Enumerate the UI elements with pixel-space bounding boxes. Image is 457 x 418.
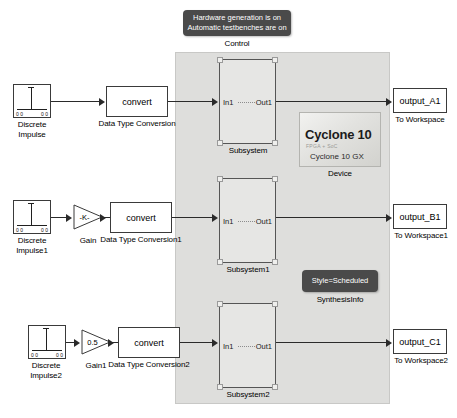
impulse-axis-icon (32, 350, 62, 351)
subsystem-dash-icon-1 (238, 221, 255, 222)
arrow-sink-in-2 (386, 339, 392, 347)
subsystem-block-2[interactable]: In1 Out1 (219, 303, 276, 388)
to-workspace-text-2: output_C1 (399, 337, 441, 347)
convert-text-1: convert (126, 213, 156, 223)
discrete-impulse-label-1: Discrete Impulse1 (0, 236, 64, 256)
subsystem-in-port-1: In1 (223, 216, 233, 225)
arrow-gain-in-1 (66, 214, 72, 222)
arrow-convert-in-0 (99, 98, 105, 106)
impulse-tick-left: 0 0 (31, 352, 38, 358)
impulse-axis-icon (17, 225, 47, 226)
arrow-subsystem-in-1 (212, 214, 218, 222)
impulse-spike-icon (31, 88, 32, 110)
subsystem-in-port-0: In1 (223, 97, 233, 106)
wire-subsystem-to-sink-0 (276, 101, 389, 102)
subsystem-label-0: Subsystem (212, 146, 284, 156)
discrete-impulse-label-0: Discrete Impulse (0, 120, 64, 140)
convert-text-0: convert (122, 97, 152, 107)
impulse-tick-left: 0 0 (16, 227, 23, 233)
to-workspace-block-1[interactable]: output_B1 (393, 204, 447, 229)
to-workspace-text-1: output_B1 (399, 212, 440, 222)
wire-convert-to-subsystem-2 (180, 342, 215, 343)
gain-block-1[interactable]: -K- (73, 204, 103, 230)
impulse-axis-icon (17, 109, 47, 110)
subsystem-out-port-1: Out1 (256, 216, 272, 225)
to-workspace-label-1: To Workspace1 (386, 231, 456, 241)
device-subtitle: FPGA + SoC (306, 143, 338, 149)
control-label: Control (183, 39, 291, 49)
arrow-gain-in-2 (74, 339, 80, 347)
arrow-convert-in-1 (100, 214, 106, 222)
to-workspace-label-0: To Workspace (386, 115, 454, 125)
to-workspace-block-0[interactable]: output_A1 (393, 88, 447, 113)
gain-value-1: -K- (75, 213, 94, 222)
to-workspace-label-2: To Workspace2 (386, 356, 456, 366)
gain-value-2: 0.5 (83, 338, 102, 347)
resize-handle-tl-0[interactable] (217, 57, 223, 63)
discrete-impulse-source-1[interactable]: 0 0 0 0 (13, 200, 51, 234)
arrow-sink-in-1 (386, 214, 392, 222)
data-type-conversion-0[interactable]: convert (106, 86, 168, 117)
wire-subsystem-to-sink-2 (276, 342, 389, 343)
resize-handle-tl-1[interactable] (217, 176, 223, 182)
convert-text-2: convert (134, 338, 164, 348)
subsystem-block-0[interactable]: In1 Out1 (219, 59, 276, 144)
device-chip[interactable]: Cyclone 10 FPGA + SoC Cyclone 10 GX (299, 112, 381, 167)
wire-subsystem-to-sink-1 (276, 217, 389, 218)
control-note-text: Hardware generation is on Automatic test… (187, 13, 286, 33)
subsystem-dash-icon-2 (238, 346, 255, 347)
resize-handle-tr-1[interactable] (272, 176, 278, 182)
hardware-subsystem-panel[interactable] (175, 52, 390, 404)
data-type-conversion-label-2: Data Type Conversion2 (104, 360, 194, 370)
synthesis-info-label: SynthesisInfo (296, 295, 384, 305)
data-type-conversion-label-0: Data Type Conversion (96, 119, 178, 129)
impulse-tick-right: 0 0 (56, 352, 63, 358)
impulse-tick-right: 0 0 (41, 227, 48, 233)
subsystem-dash-icon-0 (238, 102, 255, 103)
impulse-spike-icon (31, 204, 32, 226)
discrete-impulse-source-0[interactable]: 0 0 0 0 (13, 84, 51, 118)
resize-handle-tr-0[interactable] (272, 57, 278, 63)
data-type-conversion-label-1: Data Type Conversion1 (96, 235, 186, 245)
to-workspace-block-2[interactable]: output_C1 (393, 329, 447, 354)
wire-convert-to-subsystem-1 (172, 217, 215, 218)
resize-handle-tr-2[interactable] (272, 301, 278, 307)
subsystem-out-port-2: Out1 (256, 341, 272, 350)
gain-block-2[interactable]: 0.5 (81, 329, 111, 355)
subsystem-label-1: Subsystem1 (212, 265, 284, 275)
synthesis-info-note[interactable]: Style=Scheduled (302, 270, 378, 292)
subsystem-block-1[interactable]: In1 Out1 (219, 178, 276, 263)
wire-convert-to-subsystem-0 (168, 101, 215, 102)
arrow-sink-in-0 (386, 98, 392, 106)
wire-source-to-convert-0 (51, 101, 101, 102)
synthesis-info-text: Style=Scheduled (312, 276, 369, 286)
subsystem-out-port-0: Out1 (256, 97, 272, 106)
arrow-subsystem-in-0 (212, 98, 218, 106)
impulse-spike-icon (46, 329, 47, 351)
resize-handle-tl-2[interactable] (217, 301, 223, 307)
device-label: Device (299, 169, 381, 179)
subsystem-label-2: Subsystem2 (212, 390, 284, 400)
impulse-tick-right: 0 0 (41, 111, 48, 117)
device-title: Cyclone 10 (305, 127, 372, 142)
to-workspace-text-0: output_A1 (399, 96, 440, 106)
discrete-impulse-label-2: Discrete Impulse2 (14, 361, 78, 381)
arrow-convert-in-2 (108, 339, 114, 347)
data-type-conversion-1[interactable]: convert (110, 202, 172, 233)
discrete-impulse-source-2[interactable]: 0 0 0 0 (28, 325, 66, 359)
impulse-tick-left: 0 0 (16, 111, 23, 117)
device-model: Cyclone 10 GX (310, 152, 364, 161)
arrow-subsystem-in-2 (212, 339, 218, 347)
simulink-model-canvas: Hardware generation is on Automatic test… (0, 0, 457, 418)
control-note[interactable]: Hardware generation is on Automatic test… (183, 10, 291, 36)
data-type-conversion-2[interactable]: convert (118, 327, 180, 358)
subsystem-in-port-2: In1 (223, 341, 233, 350)
